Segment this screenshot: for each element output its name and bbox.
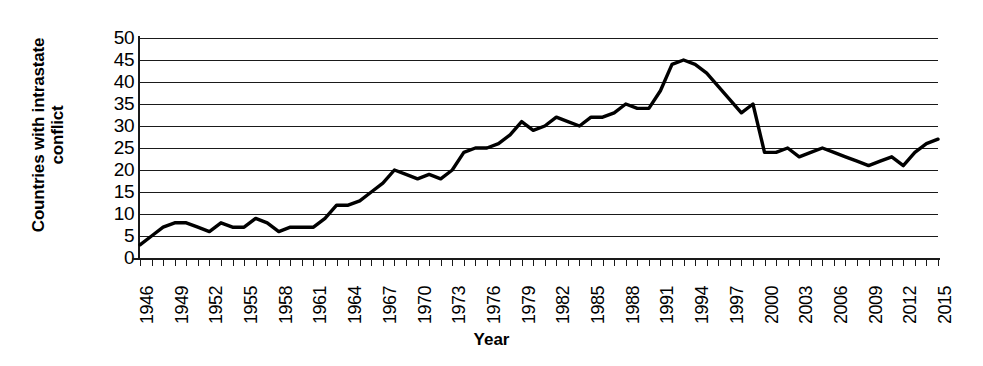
x-axis-tick-labels: 1946194919521955195819611964196719701973… [140,268,938,330]
x-axis-tick-label: 1967 [381,286,399,324]
x-axis-tick [290,259,291,266]
x-axis-tick [938,259,939,266]
x-axis-tick [672,259,673,266]
x-axis-tick [892,259,893,266]
x-axis-tick [302,259,303,266]
x-axis-tick [776,259,777,266]
x-axis-tick [394,259,395,266]
x-axis-tick-label: 1952 [207,286,225,324]
x-axis-tick [845,259,846,266]
x-axis-tick [765,259,766,266]
x-axis-tick [198,259,199,266]
y-axis-tick-label: 50 [114,28,134,47]
x-axis-tick [926,259,927,266]
x-axis-tick [163,259,164,266]
x-axis-tick [822,259,823,266]
x-axis-tick [429,259,430,266]
x-axis-tick-label: 2000 [763,286,781,324]
x-axis-tick [880,259,881,266]
x-axis-tick-label: 1976 [485,286,503,324]
y-axis-tick-label: 30 [114,116,134,135]
x-axis-tick [591,259,592,266]
x-axis-tick [626,259,627,266]
x-axis-tick-label: 1979 [520,286,538,324]
chart-figure: Countries with intrastate conflict 50454… [0,0,983,366]
y-axis-tick-label: 40 [114,72,134,91]
x-axis-tick-label: 1973 [450,286,468,324]
x-axis-tick-label: 1985 [589,286,607,324]
x-axis-tick [452,259,453,266]
x-axis-tick [707,259,708,266]
x-axis-tick [152,259,153,266]
x-axis-tick [221,259,222,266]
x-axis-tick [857,259,858,266]
x-axis-tick-label: 2003 [797,286,815,324]
x-axis-tick [487,259,488,266]
x-axis-tick [741,259,742,266]
x-axis-tick [603,259,604,266]
x-axis-tick-label: 1949 [173,286,191,324]
x-axis-tick [718,259,719,266]
x-axis-tick [811,259,812,266]
x-axis-tick [186,259,187,266]
x-axis-tick-label: 1946 [138,286,156,324]
x-axis-tick [568,259,569,266]
x-axis-ticks [140,259,938,267]
x-axis-tick [371,259,372,266]
x-axis-tick [522,259,523,266]
x-axis-tick [579,259,580,266]
x-axis-tick [348,259,349,266]
x-axis-tick-label: 1958 [277,286,295,324]
x-axis-title: Year [0,330,983,350]
y-axis-title: Countries with intrastate conflict [0,0,96,270]
y-axis-tick-label: 15 [114,182,134,201]
x-axis-tick [799,259,800,266]
x-axis-tick [267,259,268,266]
x-axis-tick-label: 1982 [554,286,572,324]
x-axis-tick [383,259,384,266]
x-axis-tick [753,259,754,266]
x-axis-tick [730,259,731,266]
x-axis-tick-label: 1991 [658,286,676,324]
x-axis-tick [903,259,904,266]
x-axis-tick [499,259,500,266]
x-axis-tick [360,259,361,266]
y-axis-tick-label: 10 [114,204,134,223]
x-axis-tick [788,259,789,266]
y-axis-tick-label: 5 [124,226,134,245]
x-axis-tick-label: 2009 [867,286,885,324]
y-axis-tick-label: 45 [114,50,134,69]
x-axis-tick [325,259,326,266]
x-axis-tick [684,259,685,266]
x-axis-tick [545,259,546,266]
x-axis-tick [869,259,870,266]
x-axis-tick [337,259,338,266]
x-axis-tick [533,259,534,266]
y-axis-tick-label: 35 [114,94,134,113]
x-axis-tick-label: 2006 [832,286,850,324]
x-axis-tick [649,259,650,266]
x-axis-tick-label: 1997 [728,286,746,324]
x-axis-tick [637,259,638,266]
x-axis-tick [406,259,407,266]
x-axis-tick [256,259,257,266]
y-axis-tick-labels: 50454035302520151050 [96,28,138,268]
y-axis-title-line2: conflict [48,38,67,232]
x-axis-tick [209,259,210,266]
plot-area [140,38,938,258]
x-axis-tick-label: 1955 [242,286,260,324]
x-axis-tick-label: 1994 [693,286,711,324]
x-axis-tick [418,259,419,266]
x-axis-tick [140,259,141,266]
x-axis-tick [614,259,615,266]
x-axis-tick [233,259,234,266]
x-axis-tick [915,259,916,266]
x-axis-tick [695,259,696,266]
x-axis-tick [279,259,280,266]
x-axis-tick-label: 1970 [416,286,434,324]
x-axis-tick [175,259,176,266]
y-axis-title-line1: Countries with intrastate [29,38,48,232]
x-axis-tick [441,259,442,266]
data-series-line [140,38,938,258]
x-axis-tick-label: 1964 [346,286,364,324]
